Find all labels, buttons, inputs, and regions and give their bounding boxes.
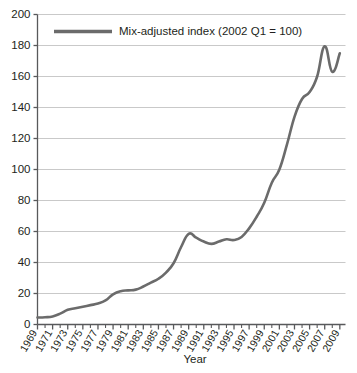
y-axis-tick-label: 80 [18, 194, 31, 206]
line-chart: 020406080100120140160180200 196919711973… [0, 0, 357, 373]
y-axis-tick-label: 200 [11, 8, 30, 20]
y-axis-tick-label: 60 [18, 225, 31, 237]
y-axis-tick-label: 180 [11, 39, 30, 51]
y-axis-tick-label: 160 [11, 70, 30, 82]
legend-label: Mix-adjusted index (2002 Q1 = 100) [119, 25, 302, 37]
x-axis-title: Year [183, 353, 206, 365]
y-axis-tick-label: 120 [11, 132, 30, 144]
y-axis-tick-label: 40 [18, 256, 31, 268]
chart-container: 020406080100120140160180200 196919711973… [0, 0, 357, 373]
y-axis-tick-label: 100 [11, 163, 30, 175]
y-axis-tick-label: 140 [11, 101, 30, 113]
y-axis-tick-label: 20 [18, 287, 31, 299]
